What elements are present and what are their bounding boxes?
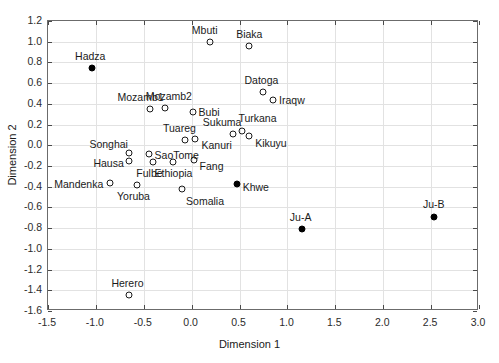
data-point-label-khwe: Khwe [243, 182, 269, 193]
x-tick-mark-top [240, 21, 241, 25]
x-tick-mark-top [335, 21, 336, 25]
data-point-label-somalia: Somalia [186, 196, 224, 207]
x-tick-label: 1.5 [327, 317, 342, 328]
x-tick-mark [144, 305, 145, 309]
data-point-label-datoga: Datoga [245, 75, 279, 86]
y-tick-label: -0.2 [24, 160, 42, 171]
y-tick-mark-right [473, 207, 477, 208]
y-tick-label: -1.6 [24, 305, 42, 316]
plot-area: MbutiBiakaDatogaIraqwMozamb1Mozamb2BubiS… [47, 20, 478, 310]
x-tick-mark [240, 305, 241, 309]
data-point-khwe [233, 180, 240, 187]
data-point-tuareg [181, 137, 188, 144]
y-tick-mark [48, 83, 52, 84]
x-tick-mark-top [96, 21, 97, 25]
data-point-turkana [239, 127, 246, 134]
x-tick-label: 2.5 [423, 317, 438, 328]
data-point-label-kanuri: Kanuri [201, 140, 231, 151]
data-point-label-mozamb2: Mozamb2 [146, 91, 192, 102]
data-point-label-hadza: Hadza [75, 51, 105, 62]
x-tick-mark [192, 305, 193, 309]
x-tick-mark [287, 305, 288, 309]
y-tick-label: 0.2 [27, 119, 42, 130]
data-point-ju-a [298, 226, 305, 233]
y-tick-mark-right [473, 166, 477, 167]
y-tick-mark-right [473, 21, 477, 22]
data-point-hausa [126, 157, 133, 164]
y-tick-label: -1.4 [24, 284, 42, 295]
data-point-label-herero: Herero [111, 278, 143, 289]
x-tick-mark [431, 305, 432, 309]
data-point-label-ethiopia: Ethiopia [155, 168, 193, 179]
data-point-songhai [126, 149, 133, 156]
y-tick-label: -0.4 [24, 181, 42, 192]
y-tick-label: 0.4 [27, 98, 42, 109]
y-tick-mark-right [473, 83, 477, 84]
y-tick-mark-right [473, 42, 477, 43]
data-point-label-mandenka: Mandenka [54, 179, 103, 190]
y-tick-mark [48, 187, 52, 188]
data-point-label-ju-b: Ju-B [423, 199, 445, 210]
y-tick-label: 0.0 [27, 139, 42, 150]
data-point-datoga [259, 89, 266, 96]
data-point-label-fang: Fang [200, 161, 224, 172]
y-tick-label: -0.8 [24, 222, 42, 233]
x-tick-mark [383, 305, 384, 309]
y-tick-mark [48, 207, 52, 208]
x-gridline [383, 21, 384, 309]
x-tick-label: 0.5 [231, 317, 246, 328]
data-point-iraqw [270, 96, 277, 103]
y-gridline [48, 270, 477, 271]
data-point-herero [126, 292, 133, 299]
y-tick-label: -0.6 [24, 201, 42, 212]
y-tick-mark-right [473, 311, 477, 312]
y-tick-mark [48, 145, 52, 146]
y-gridline [48, 290, 477, 291]
y-tick-label: -1.2 [24, 264, 42, 275]
x-gridline [240, 21, 241, 309]
data-point-somalia [179, 185, 186, 192]
x-gridline [287, 21, 288, 309]
data-point-hadza [89, 64, 96, 71]
y-gridline [48, 207, 477, 208]
y-tick-mark-right [473, 228, 477, 229]
y-tick-mark-right [473, 125, 477, 126]
x-gridline [144, 21, 145, 309]
data-point-label-ju-a: Ju-A [290, 212, 312, 223]
y-tick-mark-right [473, 62, 477, 63]
x-tick-mark [479, 305, 480, 309]
data-point-label-mbuti: Mbuti [192, 25, 218, 36]
y-tick-mark [48, 21, 52, 22]
y-tick-mark [48, 42, 52, 43]
x-tick-label: 2.0 [375, 317, 390, 328]
data-point-label-yoruba: Yoruba [117, 191, 150, 202]
x-gridline [431, 21, 432, 309]
y-tick-label: 0.6 [27, 77, 42, 88]
y-gridline [48, 42, 477, 43]
y-tick-mark-right [473, 104, 477, 105]
y-axis-title: Dimension 2 [6, 105, 18, 205]
x-tick-label: 0.0 [183, 317, 198, 328]
y-gridline [48, 62, 477, 63]
x-tick-mark-top [144, 21, 145, 25]
x-tick-mark-top [479, 21, 480, 25]
data-point-sukuma [229, 130, 236, 137]
y-gridline [48, 228, 477, 229]
y-tick-mark-right [473, 145, 477, 146]
x-axis-title: Dimension 1 [0, 338, 499, 350]
data-point-mandenka [107, 179, 114, 186]
y-tick-mark-right [473, 249, 477, 250]
y-tick-mark [48, 290, 52, 291]
data-point-yoruba [134, 181, 141, 188]
y-tick-label: 1.2 [27, 15, 42, 26]
data-point-fang [190, 156, 197, 163]
y-tick-mark [48, 62, 52, 63]
y-tick-label: 0.8 [27, 56, 42, 67]
x-tick-label: -0.5 [134, 317, 152, 328]
data-point-label-biaka: Biaka [236, 29, 262, 40]
data-point-label-iraqw: Iraqw [279, 95, 305, 106]
x-tick-mark [335, 305, 336, 309]
x-tick-label: 1.0 [279, 317, 294, 328]
y-tick-mark [48, 228, 52, 229]
y-gridline [48, 104, 477, 105]
